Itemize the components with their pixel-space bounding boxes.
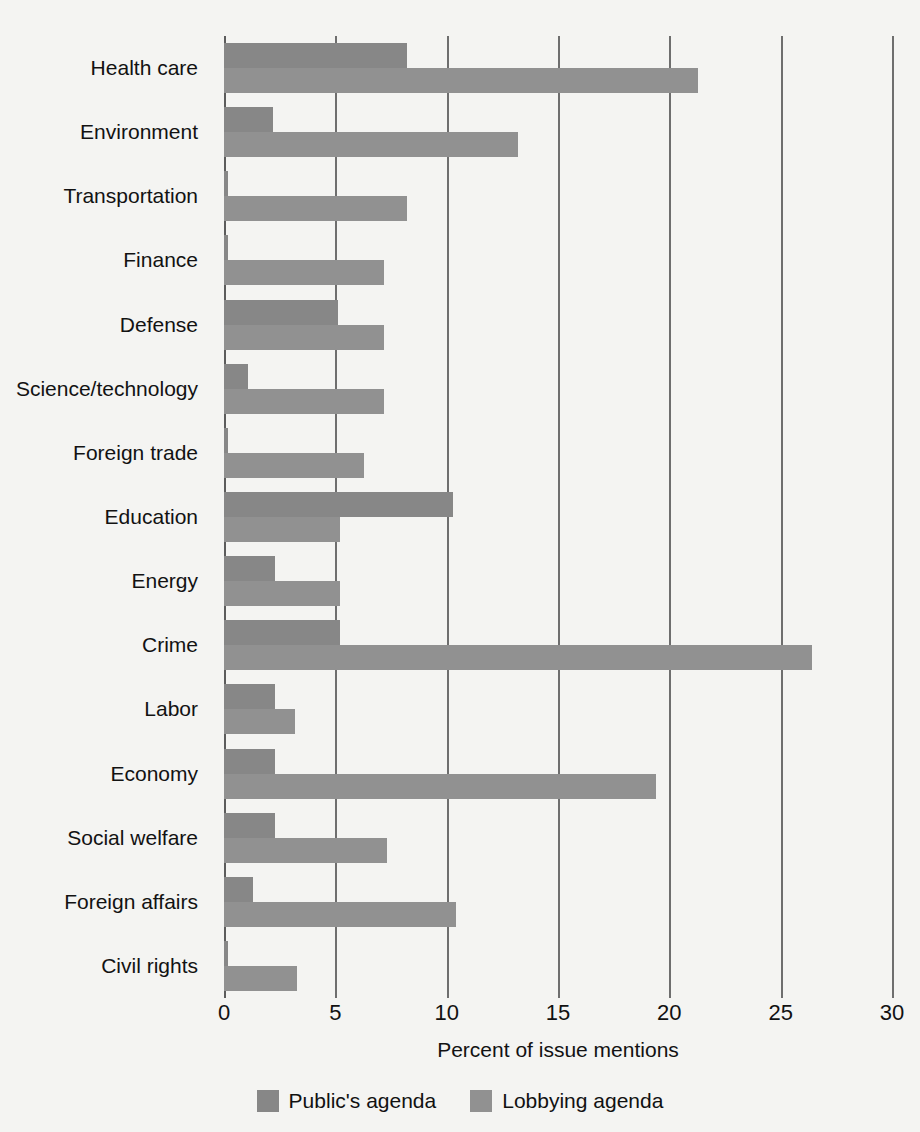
- bar-public: [224, 364, 248, 389]
- bar-public: [224, 492, 453, 517]
- bar-public: [224, 107, 273, 132]
- category-label: Energy: [0, 570, 198, 592]
- category-label: Science/technology: [0, 378, 198, 400]
- legend-label: Public's agenda: [289, 1090, 437, 1112]
- bar-group: [224, 171, 892, 221]
- category-label: Defense: [0, 314, 198, 336]
- category-label: Health care: [0, 57, 198, 79]
- category-label: Finance: [0, 249, 198, 271]
- bar-group: [224, 620, 892, 670]
- bar-group: [224, 428, 892, 478]
- bar-lobbying: [224, 838, 387, 863]
- bar-lobbying: [224, 709, 295, 734]
- bar-group: [224, 556, 892, 606]
- category-label: Civil rights: [0, 955, 198, 977]
- x-tick-label-25: 25: [751, 1000, 811, 1026]
- bar-lobbying: [224, 132, 518, 157]
- category-label: Economy: [0, 763, 198, 785]
- bar-lobbying: [224, 581, 340, 606]
- bar-group: [224, 492, 892, 542]
- bar-public: [224, 813, 275, 838]
- category-label: Crime: [0, 634, 198, 656]
- x-axis-title: Percent of issue mentions: [224, 1038, 892, 1062]
- x-tick-label-15: 15: [528, 1000, 588, 1026]
- bar-public: [224, 235, 228, 260]
- x-tick-label-0: 0: [194, 1000, 254, 1026]
- legend-swatch-icon: [257, 1090, 279, 1112]
- bar-group: [224, 684, 892, 734]
- category-axis: Health careEnvironmentTransportationFina…: [0, 36, 212, 998]
- gridline-30: [892, 36, 894, 998]
- category-label: Foreign affairs: [0, 891, 198, 913]
- bar-lobbying: [224, 196, 407, 221]
- x-axis-ticks: 051015202530: [0, 1000, 920, 1030]
- bar-public: [224, 43, 407, 68]
- category-label: Foreign trade: [0, 442, 198, 464]
- bar-public: [224, 300, 338, 325]
- bar-lobbying: [224, 902, 456, 927]
- bar-lobbying: [224, 260, 384, 285]
- bar-lobbying: [224, 517, 340, 542]
- bar-lobbying: [224, 453, 364, 478]
- bar-group: [224, 107, 892, 157]
- legend-label: Lobbying agenda: [502, 1090, 663, 1112]
- bar-group: [224, 364, 892, 414]
- bar-public: [224, 941, 228, 966]
- legend-swatch-icon: [470, 1090, 492, 1112]
- x-tick-label-20: 20: [639, 1000, 699, 1026]
- bar-lobbying: [224, 325, 384, 350]
- x-tick-label-10: 10: [417, 1000, 477, 1026]
- chart-legend: Public's agendaLobbying agenda: [0, 1090, 920, 1112]
- bar-public: [224, 428, 228, 453]
- bar-public: [224, 556, 275, 581]
- plot-area: [224, 36, 892, 998]
- category-label: Education: [0, 506, 198, 528]
- bar-public: [224, 684, 275, 709]
- bar-public: [224, 877, 253, 902]
- bar-group: [224, 877, 892, 927]
- bar-group: [224, 300, 892, 350]
- category-label: Labor: [0, 698, 198, 720]
- bar-lobbying: [224, 966, 297, 991]
- bar-public: [224, 171, 228, 196]
- bar-lobbying: [224, 68, 698, 93]
- bar-lobbying: [224, 645, 812, 670]
- x-tick-label-5: 5: [305, 1000, 365, 1026]
- bar-public: [224, 749, 275, 774]
- bar-group: [224, 941, 892, 991]
- bar-lobbying: [224, 774, 656, 799]
- bar-chart: Health careEnvironmentTransportationFina…: [0, 0, 920, 1132]
- bar-group: [224, 813, 892, 863]
- category-label: Environment: [0, 121, 198, 143]
- bar-group: [224, 749, 892, 799]
- legend-item: Public's agenda: [257, 1090, 437, 1112]
- x-tick-label-30: 30: [862, 1000, 920, 1026]
- category-label: Transportation: [0, 185, 198, 207]
- bar-lobbying: [224, 389, 384, 414]
- bar-public: [224, 620, 340, 645]
- category-label: Social welfare: [0, 827, 198, 849]
- bar-group: [224, 43, 892, 93]
- legend-item: Lobbying agenda: [470, 1090, 663, 1112]
- bar-group: [224, 235, 892, 285]
